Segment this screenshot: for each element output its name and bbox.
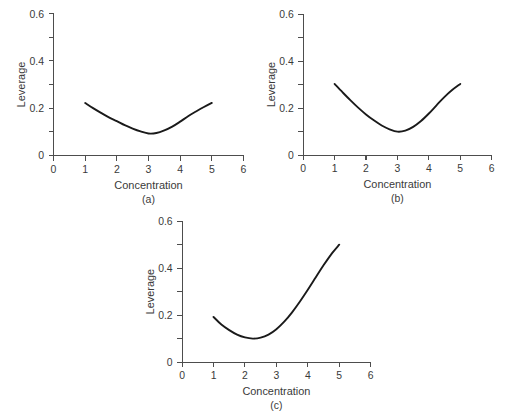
- x-tick-label: 1: [82, 163, 88, 175]
- x-tick-labels-b: 0 1 2 3 4 5 6: [300, 163, 495, 174]
- x-ticks-c: [182, 362, 371, 367]
- x-tick-label: 2: [242, 370, 248, 381]
- y-tick-labels-a: 0 0.2 0.4 0.6: [29, 8, 44, 162]
- x-tick-label: 4: [305, 370, 311, 381]
- leverage-curve-b: [335, 84, 461, 132]
- y-ticks-c: [177, 221, 182, 362]
- axes-c: [182, 221, 371, 362]
- x-tick-label: 3: [395, 163, 401, 174]
- y-tick-labels-c: 0 0.2 0.4 0.6: [158, 216, 173, 367]
- y-axis-title: Leverage: [15, 62, 27, 108]
- x-tick-label: 6: [489, 163, 495, 174]
- axes-b: [303, 14, 492, 155]
- x-tick-label: 5: [336, 370, 342, 381]
- chart-svg-a: 0 0.2 0.4 0.6 0 1 2 3 4 5 6 Concentratio…: [0, 0, 260, 207]
- y-tick-label: 0.2: [29, 102, 44, 114]
- x-tick-label: 3: [146, 163, 152, 175]
- y-tick-label: 0.4: [29, 55, 44, 67]
- leverage-curve-a: [85, 103, 212, 134]
- y-tick-label: 0.2: [279, 103, 294, 114]
- x-tick-label: 0: [179, 370, 185, 381]
- panel-caption-a: (a): [142, 193, 155, 205]
- x-axis-title: Concentration: [242, 385, 310, 397]
- chart-svg-b: 0 0.2 0.4 0.6 0 1 2 3 4 5 6 Concentratio…: [258, 0, 518, 207]
- x-tick-label: 5: [457, 163, 463, 174]
- x-axis-title: Concentration: [114, 179, 183, 191]
- x-ticks-b: [303, 155, 492, 160]
- chart-panel-c: 0 0.2 0.4 0.6 0 1 2 3 4 5 6 Concentratio…: [130, 207, 390, 414]
- x-tick-label: 2: [363, 163, 369, 174]
- leverage-curve-c: [214, 245, 340, 339]
- y-tick-labels-b: 0 0.2 0.4 0.6: [279, 9, 294, 160]
- y-tick-label: 0.4: [158, 263, 173, 274]
- x-tick-label: 6: [368, 370, 374, 381]
- y-tick-label: 0: [38, 149, 44, 161]
- leverage-figure: 0 0.2 0.4 0.6 0 1 2 3 4 5 6 Concentratio…: [0, 0, 520, 414]
- x-tick-label: 1: [211, 370, 217, 381]
- panel-caption-c: (c): [270, 400, 282, 411]
- x-tick-label: 0: [300, 163, 306, 174]
- chart-panel-b: 0 0.2 0.4 0.6 0 1 2 3 4 5 6 Concentratio…: [258, 0, 518, 207]
- y-axis-title: Leverage: [265, 62, 277, 107]
- x-tick-labels-a: 0 1 2 3 4 5 6: [51, 163, 247, 175]
- y-ticks-a: [49, 14, 54, 156]
- x-tick-label: 3: [273, 370, 279, 381]
- x-axis-title: Concentration: [363, 178, 431, 190]
- chart-svg-c: 0 0.2 0.4 0.6 0 1 2 3 4 5 6 Concentratio…: [130, 207, 390, 414]
- x-tick-label: 6: [241, 163, 247, 175]
- y-tick-label: 0.4: [279, 56, 294, 67]
- y-tick-label: 0.6: [279, 9, 294, 20]
- y-tick-label: 0.6: [158, 216, 173, 227]
- y-tick-label: 0: [288, 150, 294, 161]
- y-ticks-b: [298, 14, 303, 155]
- y-tick-label: 0.6: [29, 8, 44, 20]
- x-tick-label: 4: [177, 163, 183, 175]
- x-ticks-a: [54, 156, 244, 161]
- panel-caption-b: (b): [391, 193, 404, 204]
- x-tick-label: 5: [209, 163, 215, 175]
- y-tick-label: 0: [167, 357, 173, 368]
- x-tick-label: 1: [332, 163, 338, 174]
- y-axis-title: Leverage: [144, 269, 156, 314]
- x-tick-labels-c: 0 1 2 3 4 5 6: [179, 370, 374, 381]
- x-tick-label: 4: [426, 163, 432, 174]
- x-tick-label: 2: [114, 163, 120, 175]
- chart-panel-a: 0 0.2 0.4 0.6 0 1 2 3 4 5 6 Concentratio…: [0, 0, 260, 207]
- y-tick-label: 0.2: [158, 310, 173, 321]
- x-tick-label: 0: [51, 163, 57, 175]
